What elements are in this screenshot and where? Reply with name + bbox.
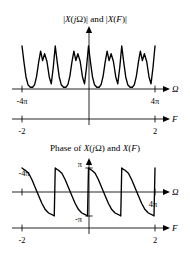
phase-omega-axis-tick-label-1: 4π — [149, 200, 158, 209]
spectrum-figure: |X(jΩ)| and |X(F)|-4π4πΩ-22FPhase of X(j… — [0, 0, 190, 258]
magnitude-f-axis-arrowhead — [163, 116, 170, 122]
magnitude-f-axis-tick-label-1: 2 — [153, 127, 157, 136]
figure-canvas: |X(jΩ)| and |X(F)|-4π4πΩ-22FPhase of X(j… — [0, 0, 190, 258]
phase-f-axis-label: F — [171, 223, 178, 233]
magnitude-f-axis-label: F — [171, 114, 178, 124]
phase-vaxis-arrowhead — [86, 158, 92, 165]
magnitude-omega-axis-label: Ω — [172, 84, 179, 94]
phase-f-axis-arrowhead — [163, 225, 170, 231]
magnitude-omega-axis-arrowhead — [163, 86, 170, 92]
magnitude-title: |X(jΩ)| and |X(F)| — [63, 14, 127, 24]
phase-ytick-label-0: π — [78, 160, 83, 169]
magnitude-f-axis-tick-label-0: -2 — [19, 127, 26, 136]
phase-omega-axis-label: Ω — [172, 187, 179, 197]
magnitude-curve — [22, 46, 155, 87]
phase-f-axis-tick-label-1: 2 — [153, 236, 157, 245]
magnitude-omega-axis-tick-label-0: -4π — [16, 97, 28, 106]
phase-f-axis-tick-label-0: -2 — [19, 236, 26, 245]
magnitude-omega-axis-tick-label-1: 4π — [151, 97, 160, 106]
phase-omega-axis-arrowhead — [163, 189, 170, 195]
magnitude-vaxis-arrowhead — [86, 26, 92, 33]
phase-title: Phase of X(jΩ) and X(F) — [50, 143, 140, 153]
phase-ytick-label-1: -π — [75, 215, 83, 224]
